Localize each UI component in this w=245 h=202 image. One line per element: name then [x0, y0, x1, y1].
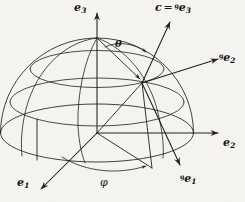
label-e3: e3	[74, 2, 86, 14]
projection-contact-to-base	[142, 83, 152, 168]
label-phi: φ	[100, 177, 108, 188]
rotated-frame-axes-group	[142, 22, 218, 165]
base-rim-front	[1, 133, 194, 162]
angle-arcs-group	[62, 44, 146, 171]
meridian-center	[78, 38, 97, 163]
fixed-frame-axes-group	[41, 13, 218, 189]
axis-director-ge3	[142, 22, 170, 83]
meridian-left	[21, 38, 97, 156]
label-e1: e1	[17, 177, 29, 189]
label-e2: e2	[223, 137, 235, 149]
label-director-c: c=ge3	[155, 2, 191, 14]
phi-arc	[62, 157, 146, 171]
axis-ge2	[142, 59, 218, 83]
axis-ge1	[142, 83, 180, 165]
label-ge2: ge2	[219, 52, 236, 64]
radius-lines-group	[37, 38, 152, 168]
projection-origin-to-rim	[97, 133, 152, 168]
meridian-curves-group	[21, 38, 163, 163]
figure-canvas	[0, 0, 245, 202]
label-theta: θ	[115, 39, 122, 49]
label-ge1: ge1	[180, 173, 197, 185]
spherical-frame-figure: e3 c=ge3 ge2 e2 e1 ge1 θ φ	[0, 0, 245, 202]
paper-grain	[0, 0, 245, 202]
